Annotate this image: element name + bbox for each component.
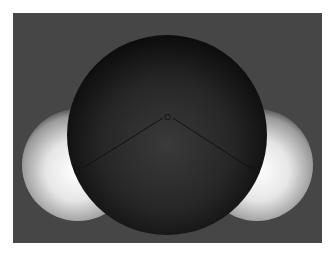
hydrogen-label-left: H [74,163,81,173]
oxygen-label: O [164,112,171,122]
hydrogen-label-right: H [249,163,256,173]
molecule-svg: O H H [13,13,322,243]
diagram-panel: O H H [13,13,322,243]
oxygen-atom [67,35,267,235]
